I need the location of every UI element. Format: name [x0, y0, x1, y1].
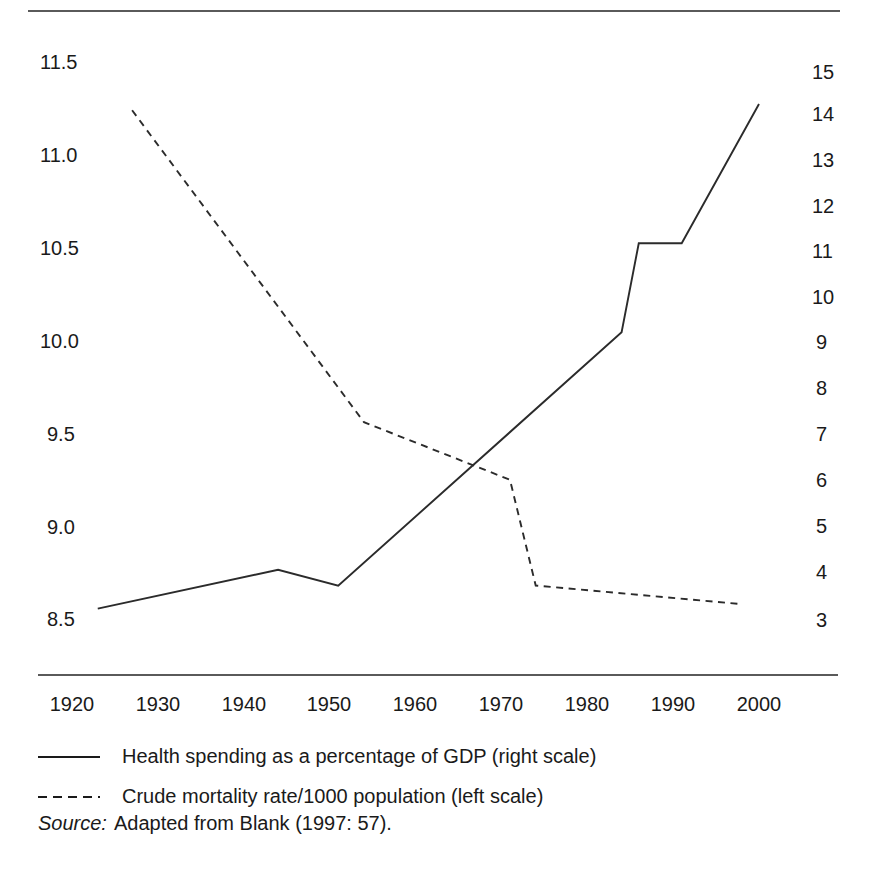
- y-right-tick-15: 15: [812, 62, 834, 82]
- y-right-tick-14: 14: [812, 104, 834, 124]
- figure-container: 11.5 11.0 10.5 10.0 9.5 9.0 8.5 15 14 13…: [0, 0, 883, 891]
- y-left-tick-9-0: 9.0: [47, 517, 75, 537]
- y-left-tick-10-5: 10.5: [40, 238, 79, 258]
- series-health-spending-line: [98, 104, 759, 609]
- y-left-tick-9-5: 9.5: [47, 424, 75, 444]
- source-text: Adapted from Blank (1997: 57).: [114, 812, 392, 834]
- legend-label-crude-mortality: Crude mortality rate/1000 population (le…: [122, 785, 543, 808]
- y-left-tick-10-0: 10.0: [40, 331, 79, 351]
- legend-item-health-spending: Health spending as a percentage of GDP (…: [38, 745, 596, 768]
- legend-solid-line-icon: [38, 750, 100, 764]
- y-right-tick-10: 10: [812, 287, 834, 307]
- source-note: Source:Adapted from Blank (1997: 57).: [38, 812, 392, 835]
- y-right-tick-7: 7: [816, 424, 827, 444]
- y-right-tick-9: 9: [816, 332, 827, 352]
- y-left-tick-8-5: 8.5: [47, 609, 75, 629]
- legend-label-health-spending: Health spending as a percentage of GDP (…: [122, 745, 596, 768]
- x-tick-1950: 1950: [307, 694, 352, 714]
- y-right-tick-12: 12: [812, 196, 834, 216]
- y-left-tick-11-0: 11.0: [40, 145, 77, 165]
- x-tick-1970: 1970: [479, 694, 524, 714]
- source-label: Source:: [38, 812, 107, 834]
- y-right-tick-13: 13: [812, 150, 834, 170]
- y-right-tick-8: 8: [816, 378, 827, 398]
- x-tick-2000: 2000: [737, 694, 782, 714]
- y-right-tick-5: 5: [816, 516, 827, 536]
- x-tick-1930: 1930: [136, 694, 181, 714]
- y-right-tick-4: 4: [816, 562, 827, 582]
- top-divider-rule: [28, 10, 840, 12]
- y-right-tick-3: 3: [816, 610, 827, 630]
- x-axis-rule: [38, 674, 838, 676]
- series-crude-mortality-line: [132, 110, 742, 604]
- x-tick-1960: 1960: [393, 694, 438, 714]
- x-tick-1990: 1990: [651, 694, 696, 714]
- legend-dashed-line-icon: [38, 790, 100, 804]
- x-tick-1940: 1940: [222, 694, 267, 714]
- legend-item-crude-mortality: Crude mortality rate/1000 population (le…: [38, 785, 543, 808]
- y-right-tick-11: 11: [812, 241, 833, 261]
- x-tick-1920: 1920: [50, 694, 95, 714]
- x-tick-1980: 1980: [565, 694, 610, 714]
- y-right-tick-6: 6: [816, 470, 827, 490]
- y-left-tick-11-5: 11.5: [40, 52, 77, 72]
